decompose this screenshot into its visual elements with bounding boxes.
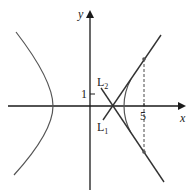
x-axis-label: x xyxy=(179,111,186,125)
hyperbola-diagram: y x 5 1 L2 L1 xyxy=(0,0,196,196)
hyperbola-left-branch xyxy=(14,32,53,175)
x-tick-label: 5 xyxy=(140,109,146,123)
point-upper xyxy=(142,57,146,61)
line-l2 xyxy=(101,88,164,182)
y-axis-label: y xyxy=(77,7,84,21)
y-tick-label: 1 xyxy=(81,87,87,101)
l2-label: L2 xyxy=(97,75,108,91)
l1-label: L1 xyxy=(97,120,108,136)
line-l1 xyxy=(103,35,161,120)
point-lower xyxy=(142,150,146,154)
